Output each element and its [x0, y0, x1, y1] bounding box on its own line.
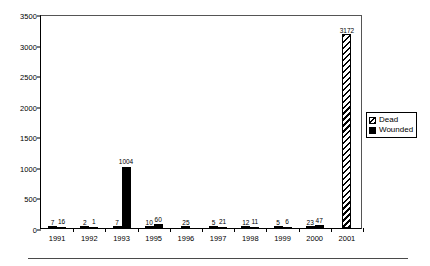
- y-axis-tick-label: 3000: [20, 42, 37, 51]
- bar-dead-2000: 23: [306, 226, 315, 228]
- bar-dead-1999: 5: [274, 226, 283, 228]
- bar-wounded-1997: 21: [218, 227, 227, 228]
- bar-dead-1991: 7: [48, 226, 57, 228]
- bar-group: 25: [176, 16, 196, 228]
- bar-group: 716: [47, 16, 67, 228]
- plot-area: 0500100015002000250030003500 71621710041…: [40, 15, 362, 229]
- bar-dead-1993: 7: [113, 226, 122, 228]
- bar-value-label: 2: [83, 220, 87, 227]
- bar-value-label: 1: [92, 219, 96, 226]
- bar-wounded-1991: 16: [57, 227, 66, 228]
- bar-group: 1211: [240, 16, 260, 228]
- y-axis-tick-label: 1500: [20, 134, 37, 143]
- bar-wounded-1993: 1004: [122, 167, 131, 228]
- bar-wounded-1992: 1: [89, 227, 98, 228]
- x-axis-tick-label: 1991: [49, 234, 66, 243]
- x-axis-tick-mark: [234, 228, 235, 232]
- bar-wounded-2000: 47: [315, 225, 324, 228]
- x-axis-tick-label: 1996: [178, 234, 195, 243]
- x-axis-tick-label: 1995: [145, 234, 162, 243]
- x-axis-tick-label: 1998: [242, 234, 259, 243]
- bar-group: 56: [273, 16, 293, 228]
- legend-item-dead: Dead: [369, 115, 413, 125]
- y-axis-tick-label: 500: [24, 195, 37, 204]
- legend-item-wounded: Wounded: [369, 125, 413, 135]
- bar-value-label: 60: [155, 217, 162, 224]
- y-axis-tick-mark: [37, 230, 41, 231]
- y-axis-tick-label: 1000: [20, 164, 37, 173]
- bar-value-label: 7: [115, 220, 119, 227]
- bar-value-label: 12: [242, 220, 249, 227]
- bar-group: 3172: [337, 16, 357, 228]
- x-axis-tick-label: 1997: [210, 234, 227, 243]
- bar-dead-1998: 12: [241, 226, 250, 228]
- legend-item-label: Wounded: [379, 125, 413, 135]
- bar-value-label: 5: [276, 220, 280, 227]
- x-axis-tick-mark: [363, 228, 364, 232]
- x-axis-tick-mark: [299, 228, 300, 232]
- x-axis-tick-label: 1999: [274, 234, 291, 243]
- x-axis-tick-label: 2001: [339, 234, 356, 243]
- y-axis-tick-label: 3500: [20, 12, 37, 21]
- bar-dead-1996: 25: [181, 226, 190, 228]
- bar-value-label: 1004: [119, 159, 133, 166]
- x-axis-tick-mark: [73, 228, 74, 232]
- bar-value-label: 16: [58, 219, 65, 226]
- bar-group: 21: [79, 16, 99, 228]
- bar-chart: 0500100015002000250030003500 71621710041…: [0, 0, 430, 266]
- bar-group: 71004: [112, 16, 132, 228]
- bar-value-label: 23: [307, 220, 314, 227]
- bar-group: 2347: [305, 16, 325, 228]
- x-axis-tick-label: 1993: [113, 234, 130, 243]
- bar-value-label: 11: [251, 219, 258, 226]
- bar-value-label: 3172: [340, 28, 354, 35]
- bar-group: 1060: [144, 16, 164, 228]
- chart-legend: DeadWounded: [366, 112, 417, 138]
- bar-value-label: 5: [212, 220, 216, 227]
- bar-value-label: 10: [146, 220, 153, 227]
- bar-wounded-1995: 60: [154, 224, 163, 228]
- horizontal-rule: [28, 258, 408, 259]
- x-axis-tick-mark: [202, 228, 203, 232]
- x-axis-tick-mark: [170, 228, 171, 232]
- x-axis-tick-label: 2000: [306, 234, 323, 243]
- legend-item-label: Dead: [379, 115, 398, 125]
- bar-value-label: 7: [51, 220, 55, 227]
- x-axis-tick-mark: [105, 228, 106, 232]
- bar-value-label: 25: [182, 220, 189, 227]
- x-axis-tick-mark: [138, 228, 139, 232]
- bar-dead-1997: 5: [209, 226, 218, 228]
- x-axis-tick-mark: [266, 228, 267, 232]
- bar-value-label: 6: [285, 219, 289, 226]
- bar-value-label: 47: [316, 218, 323, 225]
- bar-dead-1992: 2: [80, 226, 89, 228]
- diagonal-hatch-swatch: [369, 117, 376, 124]
- y-axis-tick-label: 2000: [20, 103, 37, 112]
- bar-value-label: 21: [219, 219, 226, 226]
- bar-wounded-1999: 6: [283, 227, 292, 228]
- bar-group: 521: [208, 16, 228, 228]
- x-axis-tick-mark: [331, 228, 332, 232]
- bar-wounded-1998: 11: [250, 227, 259, 228]
- bar-dead-2001: 3172: [342, 34, 351, 228]
- solid-black-swatch: [369, 127, 376, 134]
- bar-dead-1995: 10: [145, 226, 154, 228]
- bars-layer: 716217100410602552112115623473172: [41, 16, 361, 228]
- y-axis-tick-label: 2500: [20, 73, 37, 82]
- x-axis-tick-label: 1992: [81, 234, 98, 243]
